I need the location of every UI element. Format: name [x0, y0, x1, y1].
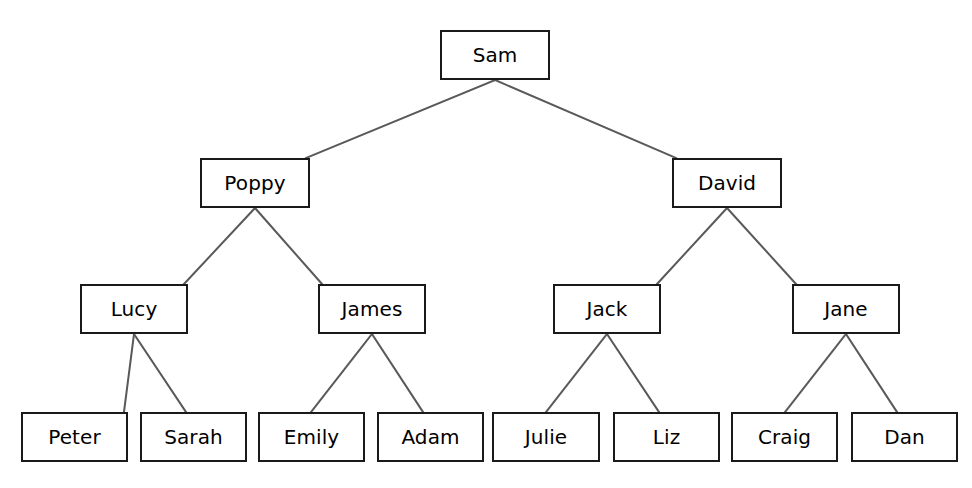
tree-node-dan[interactable]: Dan — [851, 412, 958, 462]
tree-node-label-dan: Dan — [884, 427, 925, 447]
tree-node-sarah[interactable]: Sarah — [140, 412, 247, 462]
tree-node-label-adam: Adam — [401, 427, 459, 447]
tree-node-julie[interactable]: Julie — [492, 412, 600, 462]
tree-node-james[interactable]: James — [318, 284, 426, 334]
tree-node-jane[interactable]: Jane — [792, 284, 900, 334]
tree-node-label-jane: Jane — [824, 299, 868, 319]
tree-node-label-craig: Craig — [758, 427, 811, 447]
tree-node-label-jack: Jack — [586, 299, 627, 319]
tree-node-label-poppy: Poppy — [224, 173, 285, 193]
tree-node-adam[interactable]: Adam — [377, 412, 484, 462]
tree-node-label-lucy: Lucy — [111, 299, 158, 319]
tree-node-label-david: David — [698, 173, 756, 193]
tree-node-label-emily: Emily — [284, 427, 340, 447]
tree-node-label-julie: Julie — [525, 427, 568, 447]
tree-node-label-sarah: Sarah — [164, 427, 223, 447]
tree-node-craig[interactable]: Craig — [731, 412, 838, 462]
tree-node-layer: SamPoppyDavidLucyJamesJackJanePeterSarah… — [0, 0, 972, 488]
tree-node-jack[interactable]: Jack — [553, 284, 661, 334]
tree-node-label-peter: Peter — [48, 427, 101, 447]
tree-node-sam[interactable]: Sam — [440, 30, 550, 80]
tree-node-peter[interactable]: Peter — [21, 412, 128, 462]
tree-node-lucy[interactable]: Lucy — [80, 284, 188, 334]
tree-node-label-sam: Sam — [473, 45, 518, 65]
family-tree-diagram: SamPoppyDavidLucyJamesJackJanePeterSarah… — [0, 0, 972, 488]
tree-node-label-liz: Liz — [653, 427, 681, 447]
tree-node-label-james: James — [342, 299, 403, 319]
tree-node-emily[interactable]: Emily — [258, 412, 365, 462]
tree-node-david[interactable]: David — [672, 158, 782, 208]
tree-node-poppy[interactable]: Poppy — [200, 158, 310, 208]
tree-node-liz[interactable]: Liz — [613, 412, 720, 462]
